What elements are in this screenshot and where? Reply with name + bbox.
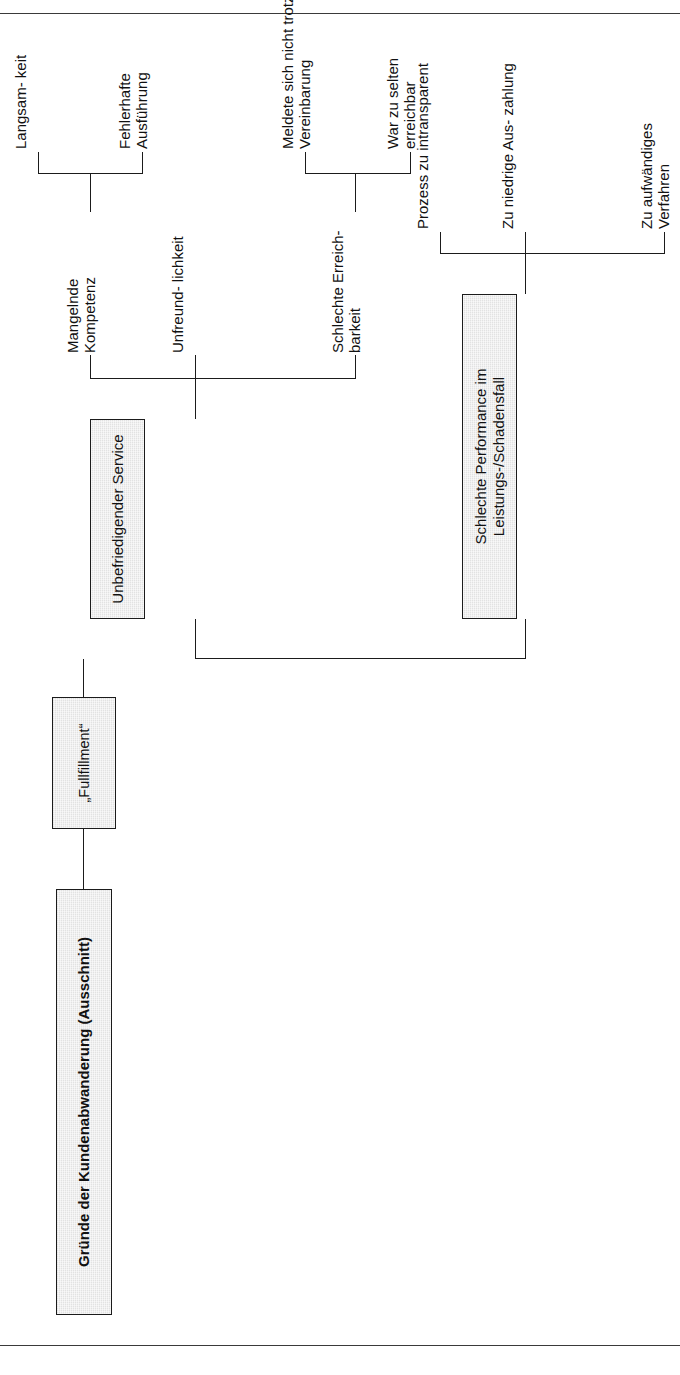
- connector-erreichbarkeit-bus: [305, 173, 410, 174]
- tree-gruende-l2-label: „Fullfillment“: [76, 724, 93, 803]
- leaf-fehlerhafte-ausfuehrung-label: Fehlerhafte Ausführung: [116, 72, 150, 149]
- connector-gruende-l2-bus: [195, 658, 525, 659]
- leaf-langsamkeit: Langsam- keit: [12, 9, 29, 149]
- connector-performance-to-prozess: [440, 232, 441, 254]
- tree-gruende-root-label: Gründe der Kundenabwanderung (Ausschnitt…: [75, 937, 92, 1267]
- leaf-zu-aufwaendiges-verfahren: Zu aufwändiges Verfahren: [638, 59, 673, 229]
- leaf-langsamkeit-label: Langsam- keit: [12, 55, 29, 149]
- leaf-meldete-sich-nicht-label: Meldete sich nicht trotz Vereinbarung: [279, 0, 313, 149]
- leaf-fehlerhafte-ausfuehrung: Fehlerhafte Ausführung: [116, 9, 151, 149]
- leaf-unfreundlichkeit-label: Unfreund- lichkeit: [169, 236, 186, 353]
- connector-erreichbarkeit-stub: [355, 174, 356, 212]
- connector-gruende-l2-stub: [83, 659, 84, 697]
- diagram-canvas: Gründe der Kundenabwanderung (Ausschnitt…: [0, 0, 680, 1375]
- connector-performance-bus: [440, 253, 664, 254]
- figure: Gründe der Kundenabwanderung (Ausschnitt…: [0, 0, 680, 1375]
- tree-gruende-l3-service-box: Unbefriedigender Service: [90, 419, 145, 619]
- connector-performance-stub: [525, 254, 526, 294]
- connector-erreichbarkeit-to-meldete: [305, 152, 306, 174]
- connector-performance-to-verfahren: [664, 232, 665, 254]
- connector-kompetenz-to-fehlerhafte: [142, 152, 143, 174]
- connector-kompetenz-bus: [38, 173, 142, 174]
- leaf-unfreundlichkeit: Unfreund- lichkeit: [169, 203, 186, 353]
- leaf-zu-niedrige-auszahlung: Zu niedrige Aus- zahlung: [499, 59, 516, 229]
- leaf-schlechte-erreichbarkeit: Schlechte Erreich- barkeit: [329, 203, 364, 353]
- leaf-zu-aufwaendiges-verfahren-label: Zu aufwändiges Verfahren: [638, 123, 672, 229]
- connector-service-bus: [90, 378, 355, 379]
- leaf-mangelnde-kompetenz: Mangelnde Kompetenz: [64, 203, 99, 353]
- leaf-prozess-intransparent: Prozess zu intransparent: [414, 59, 431, 229]
- tree-gruende-l2-box: „Fullfillment“: [52, 697, 116, 829]
- connector-erreichbarkeit-to-warzuselten: [410, 152, 411, 174]
- connector-gruende-root-to-l2: [83, 829, 84, 889]
- tree-gruende-l3-performance-label: Schlechte Performance im Leistungs-/Scha…: [472, 298, 507, 615]
- leaf-zu-niedrige-auszahlung-label: Zu niedrige Aus- zahlung: [499, 63, 516, 229]
- connector-service-to-unfreundlichkeit: [195, 355, 196, 379]
- connector-kompetenz-stub: [90, 174, 91, 212]
- connector-service-to-kompetenz: [90, 355, 91, 379]
- connector-gruende-to-service: [195, 619, 196, 659]
- leaf-mangelnde-kompetenz-label: Mangelnde Kompetenz: [64, 277, 98, 353]
- connector-service-to-erreichbarkeit: [355, 355, 356, 379]
- leaf-prozess-intransparent-label: Prozess zu intransparent: [414, 63, 431, 229]
- connector-kompetenz-to-langsamkeit: [38, 152, 39, 174]
- leaf-schlechte-erreichbarkeit-label: Schlechte Erreich- barkeit: [329, 230, 363, 353]
- tree-gruende-root-box: Gründe der Kundenabwanderung (Ausschnitt…: [56, 889, 112, 1315]
- connector-service-stub: [195, 379, 196, 419]
- connector-performance-to-auszahlung: [525, 232, 526, 254]
- leaf-meldete-sich-nicht: Meldete sich nicht trotz Vereinbarung: [279, 0, 314, 149]
- connector-gruende-to-performance: [525, 619, 526, 659]
- tree-gruende-l3-performance-box: Schlechte Performance im Leistungs-/Scha…: [462, 294, 517, 619]
- tree-gruende-l3-service-label: Unbefriedigender Service: [109, 434, 126, 603]
